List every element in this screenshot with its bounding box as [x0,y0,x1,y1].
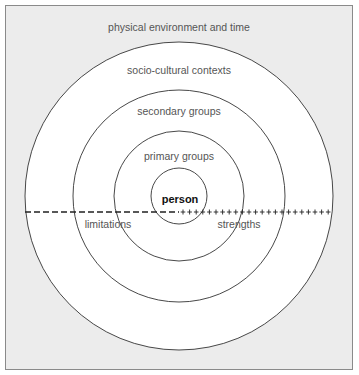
label-primary-groups: primary groups [144,150,214,162]
label-limitations: limitations [85,218,132,230]
label-secondary-groups: secondary groups [137,105,220,117]
label-strengths: strengths [217,218,260,230]
label-physical-environment: physical environment and time [108,21,250,33]
label-socio-cultural: socio-cultural contexts [127,64,231,76]
label-person: person [162,193,199,205]
ecological-rings-diagram [0,0,359,375]
strengths-axis [181,210,331,215]
